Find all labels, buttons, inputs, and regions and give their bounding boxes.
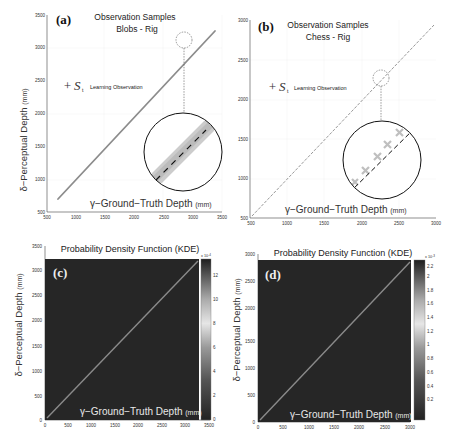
svg-text:1000: 1000 <box>282 221 293 226</box>
x-tick-labels: 500 1000 1500 2000 2500 3000 3500 <box>43 215 227 220</box>
svg-text:2000: 2000 <box>129 215 140 220</box>
svg-text:1: 1 <box>427 342 430 347</box>
figure: 500 1000 1500 2000 2500 3000 3500 500 10… <box>0 0 449 441</box>
colorbar <box>201 259 211 420</box>
svg-text:500: 500 <box>34 394 42 399</box>
svg-text:0.8: 0.8 <box>427 356 434 361</box>
panel-label: (d) <box>265 267 281 282</box>
svg-text:1500: 1500 <box>245 339 256 344</box>
svg-text:4: 4 <box>213 369 216 374</box>
svg-text:2000: 2000 <box>133 423 144 428</box>
panel-label: (a) <box>56 12 71 27</box>
y-tick-labels: 500 1000 1500 2000 2500 3000 <box>238 18 249 221</box>
svg-text:1000: 1000 <box>245 366 256 371</box>
svg-text:1500: 1500 <box>35 144 46 149</box>
svg-text:0: 0 <box>252 420 255 425</box>
svg-text:1000: 1000 <box>35 177 46 182</box>
svg-text:1500: 1500 <box>110 423 121 428</box>
y-tick-labels: 0 500 1000 1500 2000 2500 3000 3500 <box>32 244 43 423</box>
x-axis-label: γ−Ground−Truth Depth (mm) <box>90 198 212 209</box>
svg-text:2500: 2500 <box>159 215 170 220</box>
colorbar-ticks: x 10-3 0.2 0.4 0.6 0.8 1 1.2 1.4 1.6 1.8… <box>425 254 435 403</box>
svg-text:1500: 1500 <box>32 344 43 349</box>
legend: + S t Learning Observation <box>268 79 347 94</box>
svg-text:1000: 1000 <box>32 369 43 374</box>
zoom-inset <box>144 113 222 191</box>
colorbar <box>414 260 425 420</box>
svg-text:2000: 2000 <box>238 97 249 102</box>
x-tick-labels: 0 500 1000 1500 2000 2500 3000 3500 <box>44 423 215 428</box>
svg-text:0: 0 <box>44 423 47 428</box>
svg-text:3000: 3000 <box>32 268 43 273</box>
zoom-region-marker <box>176 32 192 48</box>
svg-text:1500: 1500 <box>329 425 340 430</box>
panel-c-heatmap: x 10-4 0 2 4 6 8 10 12 0 500 1000 1500 2… <box>13 244 219 428</box>
svg-text:500: 500 <box>64 423 72 428</box>
svg-text:t: t <box>82 87 84 93</box>
x-axis-label: γ−Ground−Truth Depth (mm) <box>285 204 407 215</box>
svg-text:1.2: 1.2 <box>427 329 434 334</box>
svg-text:8: 8 <box>213 321 216 326</box>
chart-title: Observation Samples <box>287 20 368 30</box>
svg-text:Learning Observation: Learning Observation <box>294 85 347 91</box>
svg-text:2000: 2000 <box>245 306 256 311</box>
y-tick-labels: 0 500 1000 1500 2000 2500 3000 <box>245 252 256 425</box>
svg-text:3500: 3500 <box>217 215 228 220</box>
svg-text:1.8: 1.8 <box>427 288 434 293</box>
zoom-region-marker <box>373 70 389 86</box>
x-tick-labels: 0 500 1000 1500 2000 2500 3000 <box>257 425 416 430</box>
svg-text:3000: 3000 <box>238 18 249 23</box>
svg-text:12: 12 <box>213 273 219 278</box>
svg-text:0: 0 <box>213 417 216 422</box>
chart-subtitle: Blobs - Rig <box>116 24 158 34</box>
svg-text:1000: 1000 <box>304 425 315 430</box>
svg-text:1000: 1000 <box>86 423 97 428</box>
svg-text:6: 6 <box>213 345 216 350</box>
svg-text:2.2: 2.2 <box>427 264 434 269</box>
chart-title: Probability Density Function (KDE) <box>61 244 200 254</box>
svg-text:1000: 1000 <box>71 215 82 220</box>
svg-text:10: 10 <box>213 297 219 302</box>
svg-text:x 10-4: x 10-4 <box>201 253 211 259</box>
svg-text:3000: 3000 <box>35 45 46 50</box>
svg-text:1500: 1500 <box>100 215 111 220</box>
svg-text:2: 2 <box>213 393 216 398</box>
chart-subtitle: Chess - Rig <box>306 32 351 42</box>
svg-text:t: t <box>287 88 289 94</box>
svg-text:2: 2 <box>427 274 430 279</box>
svg-text:1.6: 1.6 <box>427 301 434 306</box>
svg-text:2500: 2500 <box>32 293 43 298</box>
svg-text:S: S <box>74 78 81 93</box>
svg-text:3000: 3000 <box>180 423 191 428</box>
panel-b-scatter: 500 1000 1500 2000 2500 3000 500 1000 15… <box>238 18 442 226</box>
y-tick-labels: 500 1000 1500 2000 2500 3000 3500 <box>35 13 46 215</box>
panel-d-heatmap: x 10-3 0.2 0.4 0.6 0.8 1 1.2 1.4 1.6 1.8… <box>231 248 435 430</box>
svg-text:2500: 2500 <box>380 425 391 430</box>
x-axis-label: γ−Ground−Truth Depth (mm) <box>290 409 412 420</box>
svg-text:500: 500 <box>247 221 255 226</box>
legend: + S t Learning Observation <box>63 78 143 93</box>
svg-text:2500: 2500 <box>245 279 256 284</box>
svg-text:3500: 3500 <box>32 244 43 249</box>
svg-text:3500: 3500 <box>35 13 46 18</box>
svg-text:500: 500 <box>247 393 255 398</box>
svg-text:3500: 3500 <box>204 423 215 428</box>
y-axis-label: δ−Perceptual Depth (mm) <box>18 88 29 191</box>
panel-label: (b) <box>258 19 274 34</box>
svg-text:2500: 2500 <box>157 423 168 428</box>
x-tick-labels: 500 1000 1500 2000 2500 3000 <box>247 221 441 226</box>
svg-text:2500: 2500 <box>238 58 249 63</box>
chart-title: Probability Density Function (KDE) <box>274 248 413 258</box>
svg-text:1500: 1500 <box>238 137 249 142</box>
svg-text:500: 500 <box>43 215 51 220</box>
svg-text:2000: 2000 <box>357 221 368 226</box>
svg-text:2500: 2500 <box>394 221 405 226</box>
svg-text:1500: 1500 <box>319 221 330 226</box>
svg-text:0: 0 <box>39 418 42 423</box>
svg-text:+: + <box>63 78 72 93</box>
svg-text:2000: 2000 <box>32 318 43 323</box>
svg-text:x 10-3: x 10-3 <box>425 254 435 260</box>
svg-text:3000: 3000 <box>431 221 442 226</box>
chart-title: Observation Samples <box>94 12 175 22</box>
svg-text:+: + <box>268 79 277 94</box>
